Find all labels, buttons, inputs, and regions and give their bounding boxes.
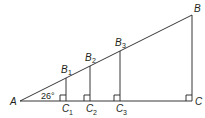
- svg-text:1: 1: [69, 109, 73, 116]
- triangle-diagram: A B C 26° B 1 B 2 B 3 C 1 C 2 C 3: [0, 0, 205, 118]
- right-angle-marker-C1: [60, 95, 66, 101]
- svg-text:B: B: [61, 64, 68, 75]
- right-angle-marker-C: [186, 95, 192, 101]
- label-C1: C 1: [62, 103, 73, 116]
- svg-text:1: 1: [68, 69, 72, 76]
- label-C: C: [195, 96, 203, 107]
- angle-label: 26°: [41, 91, 55, 101]
- svg-text:B: B: [85, 52, 92, 63]
- svg-text:2: 2: [93, 109, 97, 116]
- svg-text:B: B: [115, 37, 122, 48]
- label-A: A: [9, 96, 17, 107]
- label-B1: B 1: [61, 64, 72, 76]
- label-B2: B 2: [85, 52, 96, 64]
- svg-text:3: 3: [123, 109, 127, 116]
- label-B: B: [194, 3, 201, 14]
- right-angle-marker-C3: [114, 95, 120, 101]
- label-C2: C 2: [86, 103, 97, 116]
- right-angle-marker-C2: [84, 95, 90, 101]
- label-C3: C 3: [116, 103, 127, 116]
- svg-text:2: 2: [92, 57, 96, 64]
- label-B3: B 3: [115, 37, 126, 49]
- hypotenuse-AB: [20, 15, 192, 101]
- svg-text:3: 3: [122, 42, 126, 49]
